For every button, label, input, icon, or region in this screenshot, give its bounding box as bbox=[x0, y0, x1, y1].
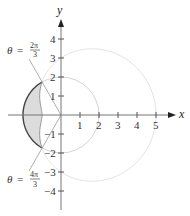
y-axis-arrow bbox=[58, 19, 64, 27]
y-tick-2: 2 bbox=[50, 71, 56, 83]
x-tick-1: 1 bbox=[77, 119, 83, 131]
y-axis-label: y bbox=[56, 3, 63, 17]
x-tick-2: 2 bbox=[96, 119, 102, 131]
y-tick-1: 1 bbox=[50, 90, 56, 102]
y-tick-neg2: −2 bbox=[44, 147, 56, 159]
y-tick-neg4: −4 bbox=[44, 185, 56, 197]
x-tick-3: 3 bbox=[115, 119, 121, 131]
svg-text:=: = bbox=[17, 173, 23, 185]
svg-text:3: 3 bbox=[33, 180, 37, 189]
y-tick-neg1: −1 bbox=[44, 128, 56, 140]
svg-text:θ: θ bbox=[7, 44, 13, 56]
annotation-theta-2pi-3: θ = 2π 3 bbox=[7, 41, 40, 59]
y-tick-4: 4 bbox=[50, 33, 56, 45]
svg-text:θ: θ bbox=[7, 173, 13, 185]
x-axis-arrow bbox=[168, 112, 176, 118]
x-axis-label: x bbox=[178, 107, 185, 121]
y-tick-3: 3 bbox=[50, 52, 56, 64]
y-tick-neg3: −3 bbox=[44, 166, 56, 178]
annotation-theta-4pi-3: θ = 4π 3 bbox=[7, 170, 40, 189]
svg-text:4π: 4π bbox=[30, 170, 38, 179]
x-tick-4: 4 bbox=[134, 119, 140, 131]
polar-region-diagram: x y 1 2 3 4 5 1 2 3 4 −1 −2 −3 −4 θ = bbox=[0, 0, 190, 216]
svg-text:3: 3 bbox=[33, 50, 37, 59]
svg-text:2π: 2π bbox=[30, 41, 38, 50]
x-tick-5: 5 bbox=[153, 119, 159, 131]
svg-text:=: = bbox=[17, 44, 23, 56]
